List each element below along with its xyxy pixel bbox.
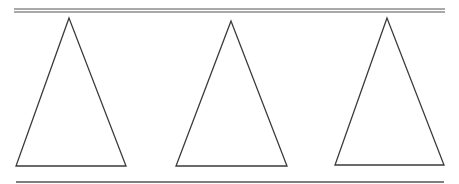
triangle-3 xyxy=(335,18,444,165)
triangle-1 xyxy=(16,18,126,166)
diagram-canvas xyxy=(0,0,459,184)
triangle-2 xyxy=(176,21,287,166)
